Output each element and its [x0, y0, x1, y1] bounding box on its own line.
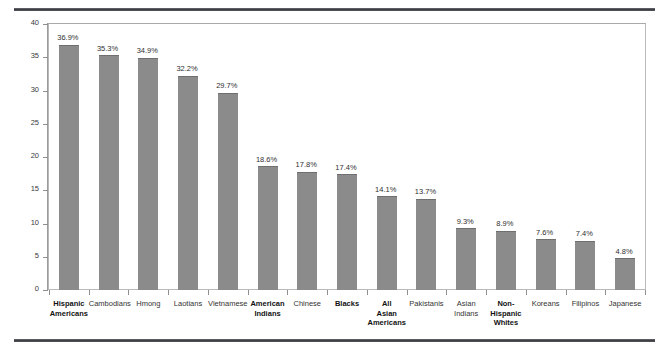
bar-slot[interactable]: 17.4%: [327, 24, 367, 290]
y-axis-tick-mark: [43, 157, 48, 158]
y-axis-tick-mark: [43, 124, 48, 125]
x-axis-category-label-line: Vietnamese: [208, 299, 248, 309]
bar[interactable]: [99, 55, 119, 290]
bar-value-label: 17.8%: [296, 160, 317, 169]
x-axis-category-label-line: Whites: [486, 318, 526, 328]
bar-slot[interactable]: 34.9%: [128, 24, 168, 290]
y-axis-tick-mark: [43, 224, 48, 225]
bar[interactable]: [456, 228, 476, 290]
x-axis-tick-mark: [605, 290, 606, 295]
x-axis-tick-mark: [49, 290, 50, 295]
x-axis-category-label-line: Cambodians: [89, 299, 129, 309]
x-axis-category-label: Laotians: [168, 299, 208, 309]
x-axis-category-label-line: Chinese: [287, 299, 327, 309]
bar-value-label: 8.9%: [496, 219, 513, 228]
bar-slot[interactable]: 4.8%: [605, 24, 645, 290]
bar-value-label: 14.1%: [375, 185, 396, 194]
y-axis-tick-mark: [43, 91, 48, 92]
x-axis-tick-mark: [526, 290, 527, 295]
bar[interactable]: [377, 196, 397, 290]
x-axis-category-label-line: Americans: [367, 318, 407, 328]
y-axis-tick-label: 25: [31, 118, 39, 127]
y-axis-tick-mark: [43, 257, 48, 258]
bar[interactable]: [178, 76, 198, 290]
bar-slot[interactable]: 32.2%: [168, 24, 208, 290]
x-axis-category-label-line: Asian: [446, 299, 486, 309]
x-axis-category-label-line: Non-: [486, 299, 526, 309]
x-axis-category-label-line: Blacks: [327, 299, 367, 309]
bar-slot[interactable]: 9.3%: [446, 24, 486, 290]
x-axis-category-label-line: Hispanic: [49, 299, 89, 309]
x-axis-category-label-line: Filipinos: [566, 299, 606, 309]
x-axis-tick-mark: [168, 290, 169, 295]
x-axis-category-label: Japanese: [605, 299, 645, 309]
bar-value-label: 7.6%: [536, 228, 553, 237]
x-axis-tick-mark: [287, 290, 288, 295]
x-axis-tick-mark: [367, 290, 368, 295]
x-axis-tick-mark: [645, 290, 646, 295]
bar-slot[interactable]: 35.3%: [89, 24, 129, 290]
bar[interactable]: [496, 231, 516, 290]
bar-slot[interactable]: 7.4%: [566, 24, 606, 290]
x-axis-tick-mark: [446, 290, 447, 295]
top-divider-rule: [14, 8, 655, 11]
x-axis-category-label: Filipinos: [566, 299, 606, 309]
y-axis-tick-label: 15: [31, 184, 39, 193]
x-axis-category-label-line: Hmong: [128, 299, 168, 309]
bar-value-label: 4.8%: [616, 247, 633, 256]
x-axis-category-label-line: Pakistanis: [407, 299, 447, 309]
bar-slot[interactable]: 14.1%: [367, 24, 407, 290]
bar[interactable]: [258, 166, 278, 290]
x-axis-category-label: Cambodians: [89, 299, 129, 309]
bar-value-label: 36.9%: [57, 33, 78, 42]
chart-page: Percentage 0510152025303540 36.9%35.3%34…: [0, 0, 669, 350]
x-axis-tick-mark: [486, 290, 487, 295]
x-axis-tick-mark: [208, 290, 209, 295]
y-axis-tick-mark: [43, 290, 48, 291]
bar-slot[interactable]: 17.8%: [287, 24, 327, 290]
bar-value-label: 13.7%: [415, 187, 436, 196]
x-axis-category-label: Blacks: [327, 299, 367, 309]
bar[interactable]: [536, 239, 556, 290]
bar-value-label: 32.2%: [176, 64, 197, 73]
bar[interactable]: [337, 174, 357, 290]
bar-value-label: 29.7%: [216, 81, 237, 90]
bar[interactable]: [297, 172, 317, 290]
y-axis-tick-label: 35: [31, 51, 39, 60]
bar[interactable]: [59, 45, 79, 290]
bar-value-label: 18.6%: [256, 155, 277, 164]
x-axis-tick-mark: [327, 290, 328, 295]
y-axis-tick-label: 40: [31, 18, 39, 27]
bar-slot[interactable]: 7.6%: [526, 24, 566, 290]
x-axis-category-label: Vietnamese: [208, 299, 248, 309]
bar[interactable]: [218, 93, 238, 291]
x-axis-category-label-line: Indians: [446, 309, 486, 319]
y-axis-tick-label: 0: [35, 284, 39, 293]
bar[interactable]: [575, 241, 595, 290]
x-axis-category-label-line: Indians: [248, 309, 288, 319]
x-axis-category-label: Pakistanis: [407, 299, 447, 309]
x-axis-category-label: AsianIndians: [446, 299, 486, 318]
y-axis-tick-mark: [43, 24, 48, 25]
bar-slot[interactable]: 13.7%: [407, 24, 447, 290]
y-axis-tick-label: 5: [35, 251, 39, 260]
bar-value-label: 17.4%: [335, 163, 356, 172]
bar-slot[interactable]: 36.9%: [49, 24, 89, 290]
x-axis-category-label: HispanicAmericans: [49, 299, 89, 318]
bar[interactable]: [615, 258, 635, 290]
x-axis-tick-mark: [407, 290, 408, 295]
x-axis-tick-mark: [566, 290, 567, 295]
x-axis-category-label: Chinese: [287, 299, 327, 309]
x-axis-category-label: AmericanIndians: [248, 299, 288, 318]
bottom-divider-rule: [14, 339, 655, 342]
bar-value-label: 7.4%: [576, 229, 593, 238]
y-axis-tick-mark: [43, 57, 48, 58]
bar-slot[interactable]: 18.6%: [248, 24, 288, 290]
bar-slot[interactable]: 29.7%: [208, 24, 248, 290]
bar[interactable]: [416, 199, 436, 290]
bar[interactable]: [138, 58, 158, 290]
x-axis-category-label: Non-HispanicWhites: [486, 299, 526, 328]
bar-slot[interactable]: 8.9%: [486, 24, 526, 290]
x-axis-tick-mark: [128, 290, 129, 295]
y-axis-tick-label: 30: [31, 85, 39, 94]
